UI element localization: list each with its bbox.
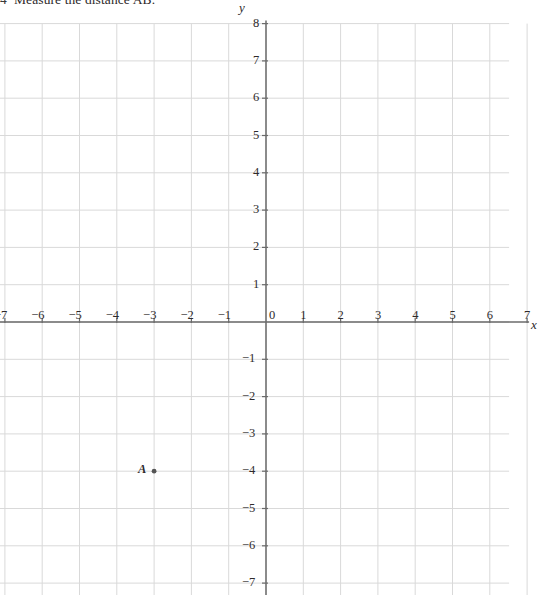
y-tick-label: 3 <box>253 202 259 217</box>
y-tick-label: −4 <box>242 463 255 478</box>
x-tick-label: 5 <box>450 308 456 323</box>
x-axis-label: x <box>531 317 537 333</box>
graph-svg <box>0 0 543 595</box>
x-tick-label: 7 <box>524 308 530 323</box>
coordinate-grid-graph: −7−6−5−4−3−2−10123456787654321−1−2−3−4−5… <box>0 0 543 595</box>
y-tick-label: 1 <box>253 277 259 292</box>
x-tick-label: 6 <box>487 308 493 323</box>
x-tick-label: −4 <box>106 308 119 323</box>
y-axis-label: y <box>239 0 245 16</box>
x-tick-label: −7 <box>0 308 7 323</box>
x-tick-label: −3 <box>143 308 156 323</box>
x-tick-label: 1 <box>300 308 306 323</box>
y-tick-label: 6 <box>253 90 259 105</box>
x-tick-label: −6 <box>31 308 44 323</box>
plotted-points <box>152 469 157 474</box>
y-tick-label: 8 <box>253 16 259 31</box>
x-tick-label: 0 <box>269 308 275 323</box>
x-tick-label: 4 <box>412 308 418 323</box>
x-tick-label: −2 <box>180 308 193 323</box>
y-tick-label: −7 <box>242 575 255 590</box>
y-tick-label: −3 <box>242 426 255 441</box>
y-tick-label: 4 <box>253 165 259 180</box>
x-tick-label: −5 <box>69 308 82 323</box>
y-tick-label: −2 <box>242 389 255 404</box>
x-tick-label: 3 <box>375 308 381 323</box>
x-tick-label: −1 <box>218 308 231 323</box>
y-tick-label: −6 <box>242 538 255 553</box>
y-tick-label: −1 <box>242 351 255 366</box>
y-tick-label: −5 <box>242 501 255 516</box>
y-tick-label: 5 <box>253 128 259 143</box>
point-label-a: A <box>138 462 146 477</box>
y-tick-label: 2 <box>253 239 259 254</box>
plotted-point-a <box>152 469 157 474</box>
y-tick-label: 7 <box>253 53 259 68</box>
x-tick-label: 2 <box>338 308 344 323</box>
